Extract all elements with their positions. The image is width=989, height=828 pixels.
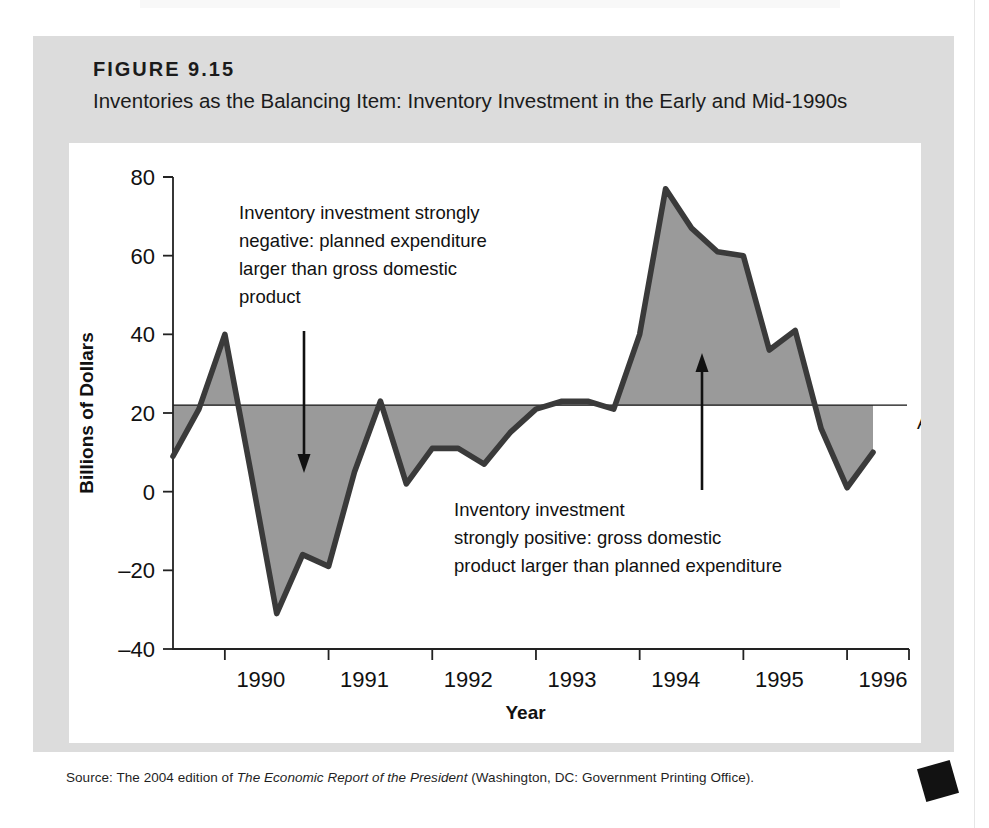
y-axis-tick-label: 80 xyxy=(131,165,155,190)
x-axis-tick-label: 1994 xyxy=(651,667,700,692)
figure-title: Inventories as the Balancing Item: Inven… xyxy=(93,86,914,116)
x-axis-tick-label: 1990 xyxy=(236,667,285,692)
page-right-rule xyxy=(974,0,975,828)
average-line-label: Average xyxy=(917,412,921,433)
page-top-artifact xyxy=(140,0,840,8)
y-axis-tick-label: ‒20 xyxy=(118,558,155,583)
x-axis-tick-label: 1992 xyxy=(444,667,493,692)
y-axis-tick-label: 40 xyxy=(131,322,155,347)
annotation-positive-line: Inventory investment xyxy=(454,499,625,520)
annotation-positive-line: product larger than planned expenditure xyxy=(454,555,782,576)
annotation-negative-line: Inventory investment strongly xyxy=(239,202,480,223)
x-axis-tick-label: 1996 xyxy=(859,667,908,692)
figure-panel: FIGURE 9.15 Inventories as the Balancing… xyxy=(33,36,954,782)
y-axis-title: Billions of Dollars xyxy=(76,332,97,494)
y-axis-tick-label: 0 xyxy=(143,480,155,505)
page-background: FIGURE 9.15 Inventories as the Balancing… xyxy=(0,0,989,828)
caption-suffix: (Washington, DC: Government Printing Off… xyxy=(467,770,754,785)
y-axis-tick-label: 60 xyxy=(131,244,155,269)
inventory-investment-chart: 806040200‒20‒401990199119921993199419951… xyxy=(69,143,921,743)
figure-heading: FIGURE 9.15 Inventories as the Balancing… xyxy=(93,56,914,116)
x-axis-tick-label: 1993 xyxy=(547,667,596,692)
source-caption: Source: The 2004 edition of The Economic… xyxy=(66,770,754,785)
x-axis-tick-label: 1995 xyxy=(755,667,804,692)
caption-strip: Source: The 2004 edition of The Economic… xyxy=(33,752,954,810)
annotation-negative-line: negative: planned expenditure xyxy=(239,230,487,251)
annotation-positive-line: strongly positive: gross domestic xyxy=(454,527,721,548)
y-axis-tick-label: ‒40 xyxy=(118,637,155,662)
annotation-negative-line: product xyxy=(239,286,301,307)
figure-number: FIGURE 9.15 xyxy=(93,56,914,82)
x-axis-title: Year xyxy=(506,702,547,723)
annotation-negative-line: larger than gross domestic xyxy=(239,258,457,279)
chapter-end-mark xyxy=(917,760,959,802)
caption-prefix: Source: The 2004 edition of xyxy=(66,770,237,785)
chart-canvas: 806040200‒20‒401990199119921993199419951… xyxy=(69,143,921,743)
y-axis-tick-label: 20 xyxy=(131,401,155,426)
x-axis-tick-label: 1991 xyxy=(340,667,389,692)
caption-italic-title: The Economic Report of the President xyxy=(237,770,468,785)
